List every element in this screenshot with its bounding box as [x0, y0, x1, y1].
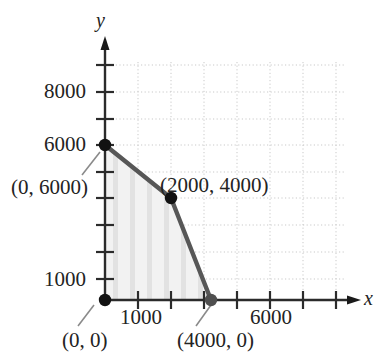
annotation-origin: (0, 0): [62, 330, 108, 351]
point-4000-0: [205, 294, 217, 306]
y-axis-arrowhead: [101, 36, 110, 50]
point-0-6000: [99, 139, 111, 151]
x-axis-tick-label-1000: 1000: [120, 307, 162, 328]
annotation-x-intercept: (4000, 0): [177, 330, 254, 351]
y-axis-name-label: y: [96, 10, 105, 30]
point-0-0: [99, 294, 111, 306]
x-axis-tick-label-6000: 6000: [250, 307, 292, 328]
x-axis-name-label: x: [364, 288, 373, 308]
annotation-kink-point: (2000, 4000): [160, 175, 269, 196]
y-axis-tick-label-8000: 8000: [44, 81, 86, 102]
y-axis-tick-label-1000: 1000: [44, 269, 86, 290]
x-axis-arrowhead: [347, 296, 361, 305]
annotation-y-intercept: (0, 6000): [11, 177, 88, 198]
y-axis-tick-label-6000: 6000: [44, 134, 86, 155]
